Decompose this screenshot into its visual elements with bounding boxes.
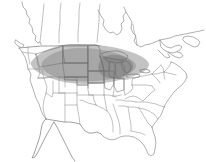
range-map-figure — [0, 0, 206, 162]
map-canvas — [0, 0, 206, 162]
